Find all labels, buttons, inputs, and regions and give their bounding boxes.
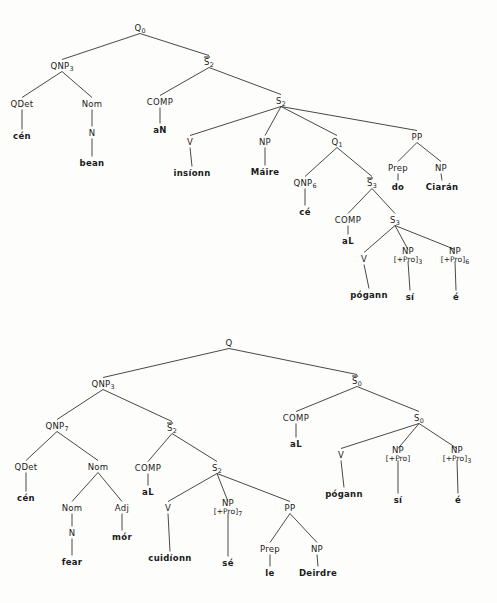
terminal-node: é bbox=[453, 293, 459, 302]
node-q0: Q0 bbox=[134, 24, 145, 33]
terminal-al: aL bbox=[142, 488, 154, 497]
node-qnp3: QNP3 bbox=[50, 62, 73, 71]
node-nom: Nom bbox=[62, 504, 83, 513]
terminal-s: sí bbox=[406, 293, 415, 302]
tree-branch bbox=[281, 107, 417, 131]
terminal-m-ire: Máire bbox=[251, 168, 280, 177]
node-s2: S2 bbox=[276, 97, 286, 106]
terminal-cuid-onn: cuidíonn bbox=[148, 554, 191, 563]
node-np: NP bbox=[311, 545, 323, 554]
tree-branch bbox=[168, 514, 170, 552]
terminal-c-n: cén bbox=[13, 132, 31, 141]
node-qnp6: QNP6 bbox=[293, 179, 316, 188]
node-comp: COMP bbox=[147, 98, 173, 107]
tree-branch bbox=[229, 349, 357, 375]
node-qdet: QDet bbox=[11, 100, 34, 109]
np-feature-label: [+Pro]3 bbox=[443, 456, 471, 464]
terminal-p-gann: pógann bbox=[325, 490, 363, 499]
terminal-le: le bbox=[265, 569, 274, 578]
tree-branch bbox=[364, 226, 395, 253]
node-comp: COMP bbox=[335, 216, 361, 225]
node-s0: S0 bbox=[352, 377, 362, 386]
node-qnp7: QNP7 bbox=[45, 422, 68, 431]
terminal-deirdre: Deirdre bbox=[299, 569, 337, 578]
tree-branch bbox=[103, 390, 172, 422]
terminal-s: sé bbox=[222, 559, 233, 568]
node-np7: NP[+Pro]7 bbox=[214, 499, 242, 516]
tree-branch bbox=[341, 424, 419, 449]
node-s3: S3 bbox=[367, 179, 377, 188]
tree-edge-layer bbox=[0, 0, 497, 603]
tree-branch bbox=[98, 473, 122, 502]
node-v: V bbox=[338, 451, 344, 460]
tree-branch bbox=[22, 72, 62, 98]
node-n: N bbox=[69, 529, 76, 538]
terminal-c-n: cén bbox=[17, 494, 35, 503]
np-feature-label: [+Pro]7 bbox=[214, 509, 242, 517]
node-prep: Prep bbox=[388, 164, 408, 173]
tree-branch bbox=[290, 514, 317, 543]
node-s2: S2 bbox=[212, 464, 222, 473]
np-feature-label: [+Pro]3 bbox=[394, 257, 422, 265]
tree-branch bbox=[168, 474, 217, 502]
node-prep: Prep bbox=[260, 545, 280, 554]
tree-branch bbox=[455, 262, 456, 291]
tree-branch bbox=[57, 432, 98, 461]
node-qnp3: QNP3 bbox=[91, 380, 114, 389]
tree-diagram-canvas: Q0QNP3S2QDetNomCOMPS2cénNaNVNPQ1PPbeanin… bbox=[0, 0, 497, 603]
terminal-an: aN bbox=[153, 126, 166, 135]
tree-branch bbox=[62, 72, 92, 98]
node-v: V bbox=[187, 138, 193, 147]
node-s2: S2 bbox=[167, 424, 177, 433]
tree-branch bbox=[364, 265, 369, 289]
node-v: V bbox=[165, 504, 171, 513]
node-s2: S2 bbox=[204, 58, 214, 67]
tree-branch bbox=[398, 143, 417, 162]
tree-branch bbox=[337, 148, 372, 177]
tree-branch bbox=[417, 143, 441, 162]
tree-branch bbox=[26, 432, 57, 461]
node-np3: NP[+Pro]3 bbox=[443, 446, 471, 463]
tree-branch bbox=[317, 555, 318, 567]
terminal-node: é bbox=[455, 496, 461, 505]
terminal-fear: fear bbox=[62, 558, 83, 567]
node-qdet: QDet bbox=[15, 463, 38, 472]
terminal-p-gann: pógann bbox=[350, 291, 388, 300]
tree-branch bbox=[57, 390, 103, 420]
node-s3: S3 bbox=[390, 216, 400, 225]
np-feature-label: [+Pro]6 bbox=[441, 257, 469, 265]
node-np: NP bbox=[259, 138, 271, 147]
node-np: NP[+Pro] bbox=[386, 446, 410, 463]
tree-branch bbox=[140, 34, 209, 56]
terminal-ins-onn: insíonn bbox=[174, 169, 211, 178]
tree-branch bbox=[160, 68, 209, 96]
tree-branch bbox=[190, 107, 281, 136]
node-np: NP bbox=[435, 164, 447, 173]
np-feature-label: [+Pro] bbox=[386, 456, 410, 464]
node-comp: COMP bbox=[135, 464, 161, 473]
tree-branch bbox=[457, 461, 458, 494]
node-q1: Q1 bbox=[331, 138, 342, 147]
tree-branch bbox=[341, 461, 344, 488]
node-n: N bbox=[89, 129, 96, 138]
tree-branch bbox=[62, 34, 140, 60]
terminal-do: do bbox=[392, 183, 405, 192]
tree-branch bbox=[408, 262, 410, 291]
node-pp: PP bbox=[285, 504, 296, 513]
tree-branch bbox=[305, 148, 337, 177]
node-np3: NP[+Pro]3 bbox=[394, 247, 422, 264]
terminal-s: sí bbox=[394, 496, 403, 505]
terminal-c: cé bbox=[299, 208, 310, 217]
node-comp: COMP bbox=[283, 414, 309, 423]
tree-branch bbox=[190, 148, 192, 167]
node-v: V bbox=[361, 255, 367, 264]
tree-branch bbox=[148, 434, 172, 462]
node-q: Q bbox=[226, 339, 233, 348]
tree-branch bbox=[265, 107, 281, 136]
tree-branch bbox=[103, 349, 229, 378]
tree-branch bbox=[209, 68, 281, 95]
node-pp: PP bbox=[412, 133, 423, 142]
tree-branch bbox=[217, 474, 228, 502]
node-adj: Adj bbox=[115, 504, 129, 513]
tree-branch bbox=[281, 107, 337, 136]
